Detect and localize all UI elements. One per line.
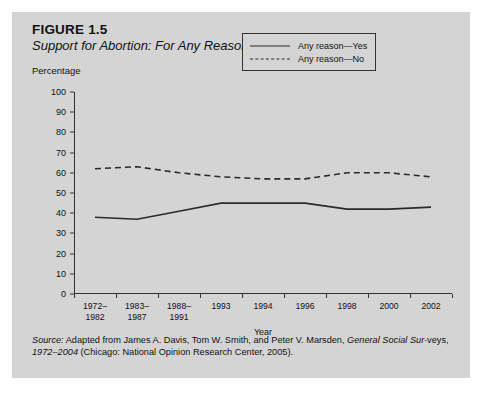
y-tick-mark (70, 253, 74, 254)
y-tick-label: 30 (56, 228, 66, 238)
legend-line-swatch (250, 41, 290, 51)
x-tick-label: 1983–1987 (125, 301, 149, 322)
y-tick-label: 100 (51, 87, 66, 97)
x-tick-mark (200, 294, 201, 298)
y-tick-mark (70, 92, 74, 93)
x-tick-label: 2000 (379, 301, 398, 312)
legend-line-glyph (250, 58, 290, 59)
x-tick-mark (326, 294, 327, 298)
y-tick-label: 50 (56, 188, 66, 198)
x-tick-label: 1972–1982 (83, 301, 107, 322)
x-tick-mark (242, 294, 243, 298)
legend-line-glyph (250, 45, 290, 46)
legend-label: Any reason—No (298, 54, 364, 64)
x-tick-mark (368, 294, 369, 298)
y-tick-label: 80 (56, 127, 66, 137)
series-line-dashed (95, 167, 431, 179)
x-tick-label: 1993 (211, 301, 230, 312)
x-axis-line (74, 293, 452, 294)
x-tick-mark (410, 294, 411, 298)
x-tick-label: 1988–1991 (167, 301, 191, 322)
x-tick-mark (116, 294, 117, 298)
x-tick-mark (452, 294, 453, 298)
y-tick-label: 10 (56, 269, 66, 279)
y-tick-mark (70, 152, 74, 153)
y-tick-label: 40 (56, 208, 66, 218)
legend-line-swatch (250, 54, 290, 64)
y-tick-label: 20 (56, 249, 66, 259)
chart-legend: Any reason—YesAny reason—No (242, 33, 376, 71)
series-layer (74, 92, 452, 294)
source-label: Source: (32, 335, 64, 345)
y-tick-mark (70, 233, 74, 234)
y-tick-mark (70, 112, 74, 113)
x-tick-label: 1996 (295, 301, 314, 312)
x-tick-mark (74, 294, 75, 298)
figure-title: Support for Abortion: For Any Reason (32, 38, 249, 53)
source-text-2: veys, (427, 335, 448, 345)
y-tick-mark (70, 132, 74, 133)
y-tick-mark (70, 193, 74, 194)
y-tick-mark (70, 273, 74, 274)
legend-item: Any reason—Yes (250, 39, 367, 52)
figure-number: FIGURE 1.5 (32, 22, 249, 37)
x-tick-label: 2002 (421, 301, 440, 312)
legend-item: Any reason—No (250, 52, 367, 65)
title-block: FIGURE 1.5 Support for Abortion: For Any… (32, 22, 249, 53)
y-tick-label: 0 (61, 289, 66, 299)
x-tick-label: 1998 (337, 301, 356, 312)
x-tick-mark (158, 294, 159, 298)
y-tick-label: 60 (56, 168, 66, 178)
series-line-solid (95, 203, 431, 219)
source-text-3: (Chicago: National Opinion Research Cent… (78, 347, 293, 357)
figure-panel: FIGURE 1.5 Support for Abortion: For Any… (12, 12, 470, 378)
x-tick-mark (284, 294, 285, 298)
source-note: Source: Adapted from James A. Davis, Tom… (32, 334, 456, 359)
legend-label: Any reason—Yes (298, 41, 367, 51)
y-tick-label: 90 (56, 107, 66, 117)
source-italic-2: 1972–2004 (32, 347, 78, 357)
source-italic-1: General Social Sur- (347, 335, 427, 345)
y-tick-mark (70, 213, 74, 214)
chart-plot-area: 0102030405060708090100 1972–19821983–198… (74, 92, 452, 294)
source-text-1: Adapted from James A. Davis, Tom W. Smit… (64, 335, 347, 345)
plot-inner: 0102030405060708090100 1972–19821983–198… (74, 92, 452, 294)
x-tick-label: 1994 (253, 301, 272, 312)
y-axis-line (74, 92, 75, 294)
y-tick-label: 70 (56, 148, 66, 158)
y-tick-mark (70, 172, 74, 173)
y-axis-title: Percentage (32, 65, 81, 76)
